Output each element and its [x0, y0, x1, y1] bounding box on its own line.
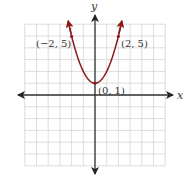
point-left-label: (−2, 5) — [36, 38, 71, 49]
point-vertex-marker — [93, 82, 96, 85]
curve-arrow-left-icon — [68, 21, 71, 34]
parabola-graph: x y (−2, 5) (0, 1) (2, 5) — [0, 0, 192, 176]
point-right-label: (2, 5) — [121, 38, 148, 49]
point-right-marker — [117, 35, 120, 38]
point-vertex-label: (0, 1) — [98, 85, 125, 96]
y-axis-label: y — [90, 0, 98, 13]
curve-arrow-right-icon — [119, 21, 122, 34]
x-axis-label: x — [177, 89, 184, 102]
